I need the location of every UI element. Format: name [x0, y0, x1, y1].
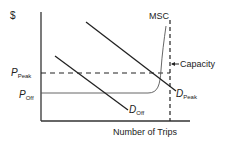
- x-axis-label: Number of Trips: [113, 127, 178, 137]
- d-peak-label: DPeak: [176, 88, 198, 100]
- peak-pricing-diagram: $ Number of Trips MSC Capacity PPeak POf…: [0, 0, 225, 142]
- d-off-label: DOff: [129, 104, 144, 116]
- p-off-label: POff: [19, 89, 34, 101]
- capacity-label: Capacity: [180, 59, 216, 69]
- msc-label: MSC: [149, 11, 170, 21]
- y-axis-label: $: [10, 10, 16, 21]
- demand-off-line: [55, 56, 128, 110]
- p-peak-label: PPeak: [11, 67, 32, 79]
- arrow-head-icon: [171, 62, 175, 66]
